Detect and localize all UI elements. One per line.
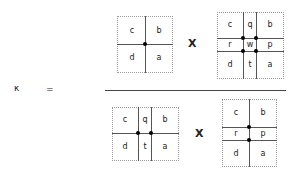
multiply-operator: X bbox=[188, 38, 196, 49]
junction-dot bbox=[254, 49, 258, 53]
cell-b: b bbox=[159, 116, 171, 124]
fraction-bar bbox=[105, 90, 286, 91]
cell-a: a bbox=[153, 54, 165, 62]
cell-d: d bbox=[230, 150, 242, 158]
equals-sign: = bbox=[46, 85, 54, 94]
cell-a: a bbox=[159, 143, 171, 151]
cell-p: p bbox=[264, 41, 276, 49]
cell-d: d bbox=[224, 61, 236, 69]
cell-b: b bbox=[153, 27, 165, 35]
cell-c: c bbox=[230, 109, 242, 117]
cell-t: t bbox=[139, 143, 151, 151]
junction-dot bbox=[136, 131, 140, 135]
cell-r: r bbox=[224, 41, 236, 49]
junction-dot bbox=[247, 125, 251, 129]
cell-b: b bbox=[264, 21, 276, 29]
cell-c: c bbox=[126, 27, 138, 35]
multiply-operator: X bbox=[195, 128, 203, 139]
cell-c: c bbox=[119, 116, 131, 124]
cell-a: a bbox=[264, 61, 276, 69]
junction-dot bbox=[247, 138, 251, 142]
cell-d: d bbox=[119, 143, 131, 151]
cell-q: q bbox=[244, 21, 256, 29]
cell-w: w bbox=[244, 41, 256, 49]
junction-dot bbox=[241, 49, 245, 53]
junction-dot bbox=[143, 42, 147, 46]
cell-b: b bbox=[257, 109, 269, 117]
kappa-symbol: κ bbox=[14, 84, 19, 93]
junction-dot bbox=[254, 36, 258, 40]
cell-q: q bbox=[139, 116, 151, 124]
cell-d: d bbox=[126, 54, 138, 62]
junction-dot bbox=[149, 131, 153, 135]
cell-c: c bbox=[224, 21, 236, 29]
cell-r: r bbox=[230, 130, 242, 138]
cell-t: t bbox=[244, 61, 256, 69]
cell-a: a bbox=[257, 150, 269, 158]
junction-dot bbox=[241, 36, 245, 40]
cell-p: p bbox=[257, 130, 269, 138]
